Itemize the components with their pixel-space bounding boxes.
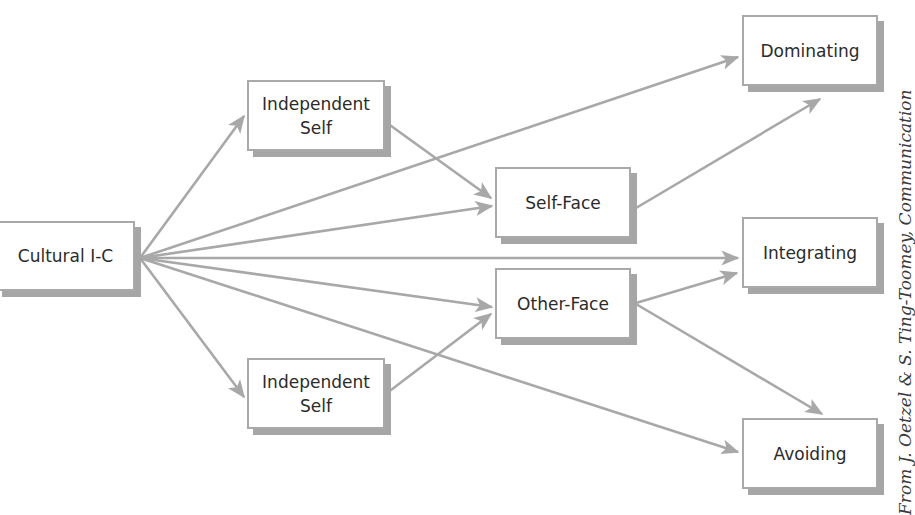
node-label: Self-Face — [525, 191, 601, 215]
arrow-cultural-to-other-face — [140, 258, 492, 307]
node-integrating: Integrating — [742, 217, 878, 288]
arrow-other-face-to-avoiding — [636, 304, 822, 414]
arrow-cultural-to-independent-bottom — [140, 258, 244, 397]
node-self-face: Self-Face — [495, 167, 631, 238]
node-independent-self-bottom: Independent Self — [247, 358, 385, 429]
node-label-line2: Self — [300, 394, 332, 418]
arrow-other-face-to-integrating — [636, 273, 737, 303]
arrow-cultural-to-self-face — [140, 206, 492, 258]
node-independent-self-top: Independent Self — [247, 80, 385, 151]
node-cultural-ic: Cultural I-C — [0, 221, 135, 291]
node-label-line1: Independent — [262, 92, 370, 116]
node-label-line2: Self — [300, 116, 332, 140]
node-label: Dominating — [761, 39, 860, 63]
node-other-face: Other-Face — [495, 268, 631, 339]
node-label: Integrating — [763, 241, 857, 265]
arrow-independent-bottom-to-other-face — [387, 314, 491, 393]
node-avoiding: Avoiding — [742, 418, 878, 489]
arrow-self-face-to-dominating — [636, 99, 820, 208]
node-label: Other-Face — [517, 292, 609, 316]
node-label: Cultural I-C — [18, 244, 113, 268]
node-dominating: Dominating — [742, 15, 878, 86]
arrow-cultural-to-independent-top — [140, 116, 244, 258]
arrow-independent-top-to-self-face — [387, 123, 491, 198]
node-label-line1: Independent — [262, 370, 370, 394]
source-credit: From J. Oetzel & S. Ting-Toomey, Communi… — [895, 89, 915, 515]
arrow-cultural-to-dominating — [140, 57, 738, 258]
node-label: Avoiding — [774, 442, 847, 466]
